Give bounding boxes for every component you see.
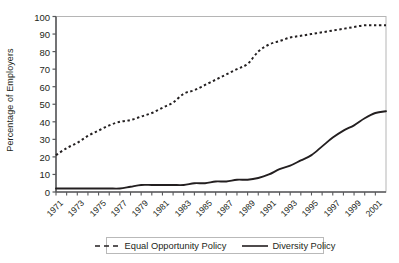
legend-label: Diversity Policy <box>272 241 335 251</box>
y-axis-tick-label: 20 <box>39 151 50 162</box>
y-axis-tick-label: 30 <box>39 134 50 145</box>
solid-line-icon <box>242 242 268 250</box>
chart-figure: Percentage of Employers 1009080706050403… <box>0 0 399 263</box>
y-axis-tick-label: 60 <box>39 81 50 92</box>
y-axis-tick-label: 50 <box>39 99 50 110</box>
y-axis-tick-label: 10 <box>39 169 50 180</box>
chart-legend: Equal Opportunity Policy Diversity Polic… <box>106 237 324 254</box>
legend-item-equal-opportunity-policy: Equal Opportunity Policy <box>95 241 227 251</box>
y-axis-tick-label: 80 <box>39 46 50 57</box>
y-axis-title: Percentage of Employers <box>0 0 20 200</box>
legend-label: Equal Opportunity Policy <box>125 241 227 251</box>
y-axis-tick-label: 100 <box>34 11 50 22</box>
y-axis-title-text: Percentage of Employers <box>5 48 15 151</box>
y-axis-tick-label: 90 <box>39 29 50 40</box>
dashed-line-icon <box>95 242 121 250</box>
plot-area <box>0 0 399 263</box>
legend-item-diversity-policy: Diversity Policy <box>242 241 335 251</box>
y-axis-tick-label: 70 <box>39 64 50 75</box>
y-axis-tick-label: 0 <box>45 187 50 198</box>
y-axis-tick-labels: 1009080706050403020100 <box>22 0 50 200</box>
y-axis-tick-label: 40 <box>39 116 50 127</box>
